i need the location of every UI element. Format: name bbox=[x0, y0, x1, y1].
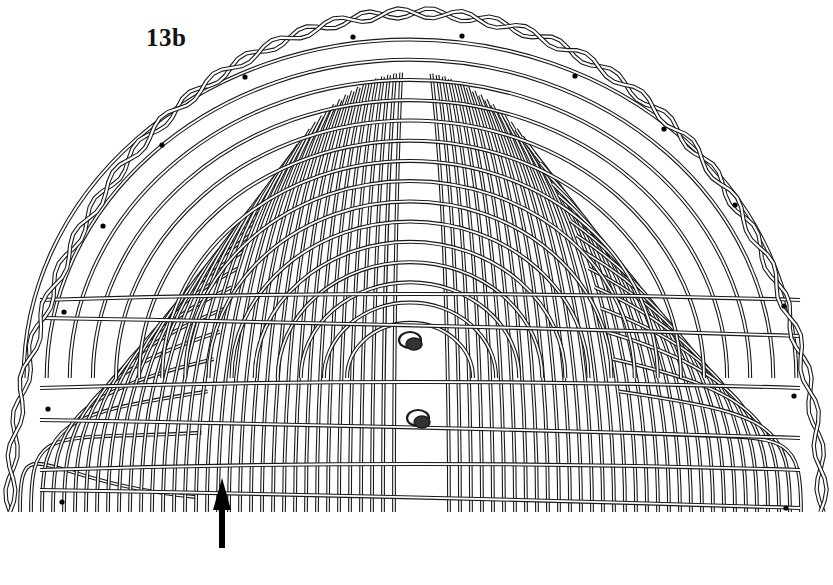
concentric-weft-strands bbox=[24, 40, 800, 508]
center-knots bbox=[399, 332, 430, 428]
figure-label: 13b bbox=[146, 24, 186, 52]
weave-diagram: 13b bbox=[0, 0, 833, 585]
marker-dots bbox=[45, 33, 796, 510]
weave-drawing bbox=[0, 0, 833, 585]
